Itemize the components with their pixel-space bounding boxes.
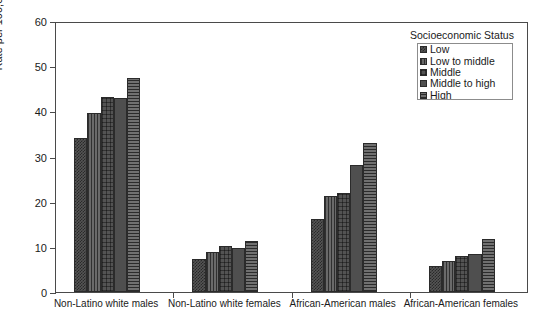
- bar: [74, 138, 87, 292]
- y-tick-label: 40: [0, 106, 55, 118]
- bar: [482, 239, 495, 292]
- legend-box: LowLow to middleMiddleMiddle to highHigh: [417, 43, 513, 100]
- y-tick-label: 60: [0, 16, 55, 28]
- bar: [192, 259, 205, 292]
- legend-item-label: Middle: [430, 67, 461, 78]
- bar: [311, 219, 324, 292]
- bar: [324, 196, 337, 292]
- bar-chart: Rate per 100,000 0102030405060 Non-Latin…: [0, 0, 542, 322]
- y-tick-label: 50: [0, 61, 55, 73]
- legend-swatch-icon: [420, 92, 427, 99]
- x-axis-group-label: African-American females: [404, 298, 518, 309]
- y-tick-mark: [50, 293, 56, 294]
- legend-item-label: Middle to high: [430, 78, 495, 89]
- x-axis-separator-tick: [410, 293, 411, 298]
- bar: [206, 252, 219, 292]
- bar: [87, 113, 100, 292]
- legend-swatch-icon: [420, 58, 427, 65]
- x-axis-group-label: African-American males: [290, 298, 396, 309]
- bar: [101, 97, 114, 292]
- bar: [219, 246, 232, 292]
- y-tick-label: 20: [0, 197, 55, 209]
- legend-item: High: [418, 90, 512, 100]
- y-tick-label: 0: [0, 287, 55, 299]
- bar: [455, 256, 468, 292]
- legend-title: Socioeconomic Status: [410, 29, 514, 41]
- bar: [468, 254, 481, 292]
- bar: [114, 98, 127, 292]
- legend-item: Middle to high: [418, 78, 512, 89]
- bar: [127, 78, 140, 292]
- legend-item-label: High: [430, 90, 452, 100]
- bar: [245, 241, 258, 292]
- x-axis-separator-tick: [173, 293, 174, 298]
- bar: [232, 248, 245, 292]
- legend-item-label: Low to middle: [430, 56, 495, 67]
- x-axis-group-label: Non-Latino white females: [168, 298, 281, 309]
- bar: [442, 261, 455, 292]
- bar: [350, 165, 363, 292]
- y-tick-label: 10: [0, 242, 55, 254]
- bar: [363, 143, 376, 292]
- legend-item-label: Low: [430, 44, 449, 55]
- x-axis-separator-tick: [292, 293, 293, 298]
- legend-swatch-icon: [420, 69, 427, 76]
- y-tick-label: 30: [0, 152, 55, 164]
- legend-swatch-icon: [420, 46, 427, 53]
- bar: [429, 266, 442, 292]
- legend-item: Low: [418, 44, 512, 55]
- x-axis-group-label: Non-Latino white males: [54, 298, 159, 309]
- legend-swatch-icon: [420, 80, 427, 87]
- bar: [337, 193, 350, 292]
